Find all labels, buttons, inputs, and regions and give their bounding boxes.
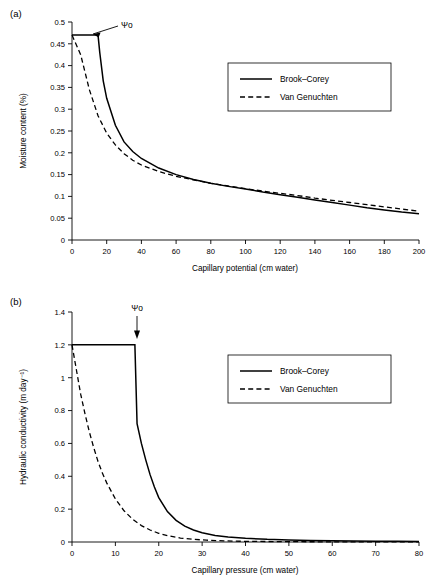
panel-a-legend-label-1: Brook–Corey <box>280 74 330 84</box>
x-tick-label: 30 <box>198 549 206 558</box>
panel-b-psi-label: Ψo <box>131 303 143 313</box>
x-tick-label: 180 <box>378 247 391 256</box>
panel-a-x-axis-title: Capillary potential (cm water) <box>192 264 298 273</box>
x-tick-label: 80 <box>415 549 423 558</box>
y-tick-label: 0.5 <box>54 18 65 27</box>
panel-a-y-axis-title: Moisture content (%) <box>19 93 28 169</box>
panel-a-legend-label-2: Van Genuchten <box>280 92 338 102</box>
y-tick-label: 0.8 <box>54 406 65 415</box>
panel-b: (b) 00.20.40.60.811.21.4 010203040506070… <box>0 292 442 585</box>
y-tick-label: 0.2 <box>54 505 65 514</box>
panel-a-svg: 00.050.10.150.20.250.30.350.40.450.5 020… <box>0 0 442 292</box>
x-tick-label: 0 <box>70 549 74 558</box>
y-tick-label: 0.15 <box>50 170 65 179</box>
x-tick-label: 50 <box>285 549 293 558</box>
x-tick-label: 200 <box>413 247 426 256</box>
y-tick-label: 0.35 <box>50 83 65 92</box>
panel-a-curve-brook-corey <box>72 35 419 214</box>
x-tick-label: 40 <box>241 549 249 558</box>
x-tick-label: 60 <box>172 247 180 256</box>
panel-b-x-axis-title: Capillary pressure (cm water) <box>192 566 299 575</box>
panel-b-legend-label-1: Brook–Corey <box>280 366 330 376</box>
y-tick-label: 1 <box>61 374 65 383</box>
panel-a: (a) 00.050.10.150.20.250.30.350.40.450.5… <box>0 0 442 292</box>
panel-a-psi-annotation: Ψo <box>93 20 133 37</box>
y-tick-label: 0.4 <box>54 472 65 481</box>
y-tick-label: 0.6 <box>54 439 65 448</box>
y-tick-label: 0 <box>61 538 65 547</box>
y-tick-label: 0.25 <box>50 127 65 136</box>
panel-b-curve-brook-corey <box>72 345 419 542</box>
y-tick-label: 0.3 <box>54 105 65 114</box>
y-tick-label: 1.4 <box>54 308 65 317</box>
panel-a-plot: 00.050.10.150.20.250.30.350.40.450.5 020… <box>0 0 442 292</box>
x-tick-label: 0 <box>70 247 74 256</box>
x-tick-label: 140 <box>309 247 322 256</box>
x-tick-label: 100 <box>239 247 252 256</box>
x-tick-label: 70 <box>371 549 379 558</box>
x-tick-label: 160 <box>343 247 356 256</box>
y-tick-label: 0 <box>61 236 65 245</box>
panel-b-psi-annotation: Ψo <box>131 303 143 339</box>
y-tick-label: 0.1 <box>54 192 65 201</box>
y-tick-label: 0.4 <box>54 61 65 70</box>
figure-page: (a) 00.050.10.150.20.250.30.350.40.450.5… <box>0 0 442 585</box>
panel-a-psi-label: Ψo <box>121 20 133 30</box>
panel-b-legend-label-2: Van Genuchten <box>280 384 338 394</box>
panel-b-plot: 00.20.40.60.811.21.4 01020304050607080 Ψ… <box>0 292 442 585</box>
y-tick-label: 0.05 <box>50 214 65 223</box>
x-tick-label: 80 <box>207 247 215 256</box>
panel-b-svg: 00.20.40.60.811.21.4 01020304050607080 Ψ… <box>0 292 442 585</box>
panel-a-curve-van-genuchten <box>72 35 419 211</box>
y-tick-label: 1.2 <box>54 341 65 350</box>
panel-b-legend: Brook–Corey Van Genuchten <box>228 355 391 403</box>
x-tick-label: 10 <box>111 549 119 558</box>
panel-a-legend: Brook–Corey Van Genuchten <box>228 63 391 111</box>
panel-b-curve-van-genuchten <box>72 345 419 542</box>
y-tick-label: 0.45 <box>50 40 65 49</box>
panel-b-y-axis-title: Hydraulic conductivity (m day⁻¹) <box>19 369 28 485</box>
x-tick-label: 60 <box>328 549 336 558</box>
x-tick-label: 20 <box>155 549 163 558</box>
y-tick-label: 0.2 <box>54 149 65 158</box>
x-tick-label: 40 <box>137 247 145 256</box>
x-tick-label: 20 <box>102 247 110 256</box>
x-tick-label: 120 <box>274 247 287 256</box>
